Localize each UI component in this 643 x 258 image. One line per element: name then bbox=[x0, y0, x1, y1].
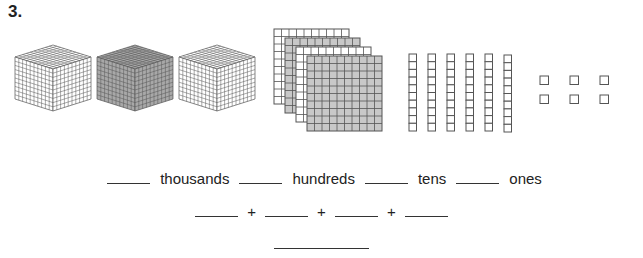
tens-rod bbox=[466, 54, 474, 131]
place-value-row: thousands hundreds tens ones bbox=[0, 170, 643, 187]
tens-rod bbox=[447, 54, 455, 131]
ones-blank[interactable] bbox=[456, 182, 499, 184]
standard-form-row bbox=[0, 247, 643, 249]
tens-rod bbox=[409, 54, 417, 131]
ones-label: ones bbox=[509, 170, 542, 187]
thousands-cube bbox=[15, 45, 91, 111]
tens-rod bbox=[485, 54, 493, 131]
standard-form-blank[interactable] bbox=[274, 247, 369, 249]
expanded-blank-4[interactable] bbox=[405, 215, 448, 217]
plus-sign: + bbox=[387, 203, 396, 220]
ones-unit bbox=[570, 76, 579, 85]
ones-unit bbox=[540, 95, 549, 104]
hundreds-label: hundreds bbox=[292, 170, 355, 187]
plus-sign: + bbox=[317, 203, 326, 220]
thousands-cube bbox=[97, 45, 173, 111]
tens-label: tens bbox=[418, 170, 446, 187]
tens-blank[interactable] bbox=[365, 182, 408, 184]
ones-unit bbox=[570, 95, 579, 104]
thousands-label: thousands bbox=[160, 170, 229, 187]
ones-unit bbox=[540, 76, 549, 85]
expanded-blank-2[interactable] bbox=[265, 215, 308, 217]
ones-unit bbox=[600, 76, 609, 85]
base-ten-blocks bbox=[0, 0, 643, 160]
hundreds-blank[interactable] bbox=[239, 182, 282, 184]
hundreds-flats-group bbox=[274, 29, 382, 131]
thousands-cube bbox=[179, 45, 255, 111]
thousands-cubes-group bbox=[15, 45, 255, 111]
expanded-blank-3[interactable] bbox=[335, 215, 378, 217]
ones-unit bbox=[600, 95, 609, 104]
tens-rods-group bbox=[409, 54, 512, 132]
tens-rod bbox=[428, 54, 436, 131]
ones-units-group bbox=[540, 76, 609, 104]
hundreds-flat bbox=[307, 56, 382, 131]
tens-rod bbox=[504, 55, 512, 132]
expanded-form-row: + + + bbox=[0, 203, 643, 220]
expanded-blank-1[interactable] bbox=[195, 215, 238, 217]
thousands-blank[interactable] bbox=[107, 182, 150, 184]
plus-sign: + bbox=[247, 203, 256, 220]
